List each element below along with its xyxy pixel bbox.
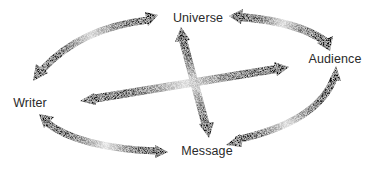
node-message: Message (181, 144, 232, 158)
arrow-writer-audience (80, 62, 289, 105)
arrow-universe-audience (229, 9, 333, 51)
node-universe: Universe (173, 11, 223, 25)
diagram-canvas: Universe Audience Writer Message (0, 0, 376, 169)
node-writer: Writer (13, 96, 47, 110)
node-audience: Audience (309, 52, 362, 66)
arrow-writer-universe (33, 12, 158, 81)
arrow-writer-message (39, 114, 168, 158)
